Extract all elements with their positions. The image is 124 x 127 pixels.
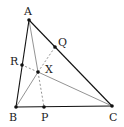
point-x [36,70,40,74]
point-r [20,63,24,67]
point-c [110,104,114,108]
label-p: P [41,111,49,124]
label-c: C [109,111,117,124]
diagram-svg: A B C P Q R X [0,0,124,127]
label-q: Q [58,36,67,49]
cevian-xr [22,65,38,72]
label-b: B [9,111,17,124]
side-bc [16,106,112,107]
cevian-xp [38,72,44,107]
cevian-cx [38,72,112,106]
triangle-diagram: A B C P Q R X [0,0,124,127]
point-q [53,45,57,49]
label-x: X [45,63,53,76]
label-r: R [10,55,19,68]
label-a: A [23,5,33,18]
cevian-bx [16,72,38,107]
point-b [14,105,18,109]
point-p [42,105,46,109]
point-a [27,18,31,22]
